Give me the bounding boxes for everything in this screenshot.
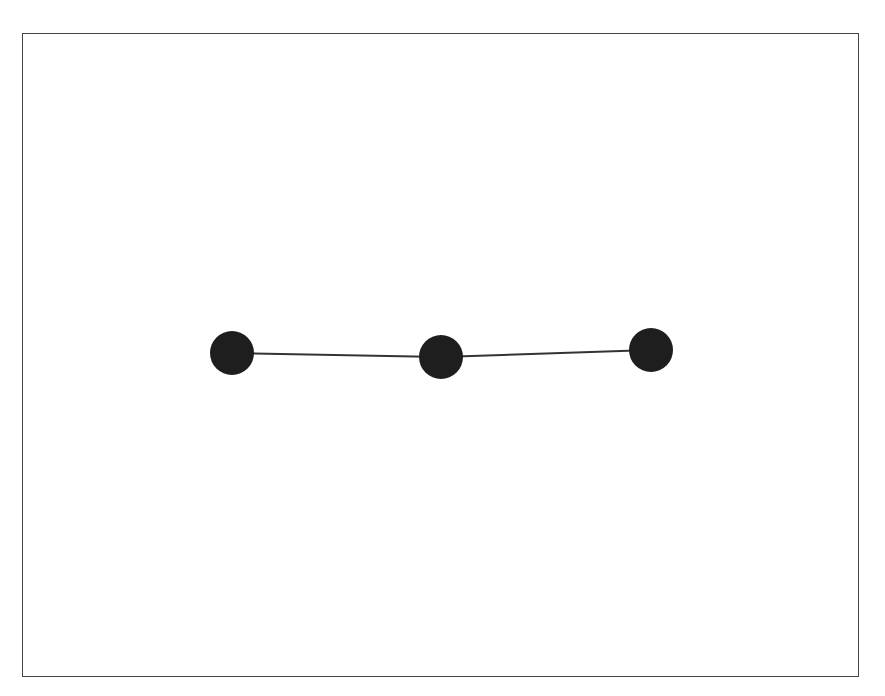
graph-canvas (0, 0, 885, 696)
node-n3 (629, 328, 673, 372)
edge-n2-n3 (441, 350, 651, 357)
edge-n1-n2 (232, 353, 441, 357)
node-n2 (419, 335, 463, 379)
node-n1 (210, 331, 254, 375)
